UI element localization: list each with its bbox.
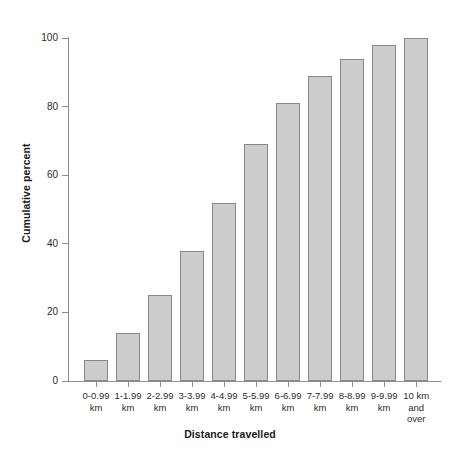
bar	[276, 103, 300, 381]
bar	[180, 251, 204, 381]
bar	[244, 144, 268, 381]
y-axis-tick-mark	[62, 175, 68, 176]
x-axis-tick-label-line: 10 km	[393, 390, 439, 402]
x-axis-tick-mark	[96, 381, 97, 387]
y-axis-tick-mark	[62, 312, 68, 313]
x-axis-tick-label-line: over	[393, 413, 439, 425]
bar	[148, 295, 172, 381]
bar	[116, 333, 140, 381]
x-axis-tick-mark	[160, 381, 161, 387]
y-axis-tick: 20	[47, 307, 68, 317]
y-axis-title: Cumulative percent	[16, 0, 36, 385]
x-axis-tick-mark	[224, 381, 225, 387]
y-axis-tick-mark	[62, 106, 68, 107]
bar	[212, 203, 236, 381]
y-axis-tick-mark	[62, 381, 68, 382]
y-axis-tick-label: 80	[47, 102, 58, 112]
x-axis-tick-mark	[320, 381, 321, 387]
y-axis-tick: 60	[47, 170, 68, 180]
x-axis-tick-mark	[416, 381, 417, 387]
x-axis-tick-mark	[128, 381, 129, 387]
bar	[404, 38, 428, 381]
x-axis-tick-mark	[192, 381, 193, 387]
x-axis-tick-label-line: and	[393, 402, 439, 414]
x-axis-tick-mark	[288, 381, 289, 387]
y-axis-tick: 80	[47, 102, 68, 112]
y-axis-tick: 100	[41, 33, 68, 43]
plot-area: 020406080100	[68, 38, 440, 381]
y-axis-tick-label: 0	[52, 376, 58, 386]
chart-figure: Cumulative percent 020406080100 Distance…	[0, 0, 460, 455]
y-axis-tick-label: 20	[47, 307, 58, 317]
y-axis-tick-mark	[62, 38, 68, 39]
x-axis-tick-label: 10 kmandover	[393, 390, 439, 425]
y-axis-tick-label: 40	[47, 239, 58, 249]
y-axis-tick: 0	[52, 376, 68, 386]
y-axis-tick-label: 60	[47, 170, 58, 180]
x-axis-tick-mark	[352, 381, 353, 387]
x-axis-tick-mark	[256, 381, 257, 387]
y-axis-title-text: Cumulative percent	[20, 143, 32, 242]
bar	[84, 360, 108, 381]
bar	[340, 59, 364, 381]
x-axis-title: Distance travelled	[0, 428, 460, 440]
y-axis-tick: 40	[47, 239, 68, 249]
x-axis-tick-mark	[384, 381, 385, 387]
bar	[372, 45, 396, 381]
y-axis-tick-label: 100	[41, 33, 58, 43]
y-axis-tick-mark	[62, 243, 68, 244]
bar	[308, 76, 332, 381]
